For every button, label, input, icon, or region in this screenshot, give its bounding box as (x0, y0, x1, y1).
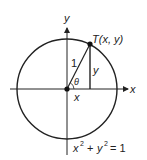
radius-label: 1 (71, 57, 77, 69)
equation-y-exponent: 2 (104, 140, 108, 147)
y-axis-label: y (63, 12, 71, 24)
equation-y: y (96, 142, 104, 154)
angle-label: θ (74, 77, 79, 87)
point-t-label: T(x, y) (92, 33, 123, 45)
equation-x: x (72, 142, 79, 154)
circle-equation: x 2 + y 2 = 1 (72, 140, 126, 154)
equation-equals: = 1 (110, 142, 126, 154)
diagram-labels: y x T(x, y) 1 θ y x x 2 + y 2 = 1 (0, 0, 147, 160)
horizontal-leg-label: x (73, 91, 80, 103)
x-axis-label: x (129, 83, 136, 95)
equation-plus: + (87, 142, 93, 154)
vertical-leg-label: y (92, 64, 100, 76)
equation-x-exponent: 2 (80, 140, 84, 147)
